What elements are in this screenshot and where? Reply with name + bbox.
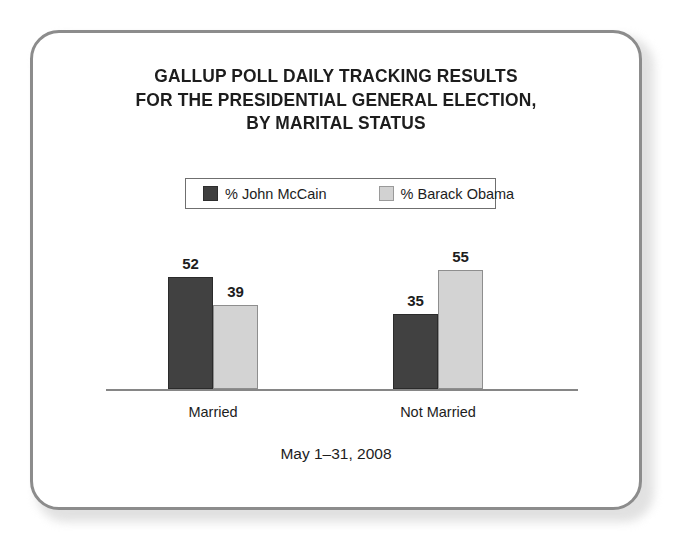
chart-legend: % John McCain % Barack Obama	[185, 178, 496, 209]
category-label-not-married: Not Married	[400, 404, 476, 420]
bar-value-married-mccain: 52	[182, 255, 199, 272]
chart-title-line-2: FOR THE PRESIDENTIAL GENERAL ELECTION,	[51, 88, 621, 112]
bar-value-married-obama: 39	[227, 283, 244, 300]
category-label-married: Married	[188, 404, 237, 420]
chart-frame: GALLUP POLL DAILY TRACKING RESULTS FOR T…	[30, 30, 642, 510]
legend-swatch-mccain	[203, 186, 218, 201]
legend-swatch-obama	[379, 186, 394, 201]
bar-value-not-married-obama: 55	[452, 248, 469, 265]
legend-entry-obama: % Barack Obama	[379, 186, 515, 202]
chart-footer-date-range: May 1–31, 2008	[33, 445, 639, 463]
bar-married-obama: 39	[213, 305, 258, 389]
chart-title: GALLUP POLL DAILY TRACKING RESULTS FOR T…	[51, 64, 621, 135]
legend-entry-mccain: % John McCain	[203, 186, 327, 202]
legend-label-mccain: % John McCain	[225, 186, 327, 202]
chart-title-line-1: GALLUP POLL DAILY TRACKING RESULTS	[51, 64, 621, 88]
bar-married-mccain: 52	[168, 277, 213, 389]
legend-label-obama: % Barack Obama	[401, 186, 515, 202]
bar-value-not-married-mccain: 35	[407, 292, 424, 309]
x-axis-baseline	[106, 389, 578, 391]
chart-title-line-3: BY MARITAL STATUS	[51, 111, 621, 135]
plot-area: 52 39 35 55 Married Not Married	[106, 223, 578, 391]
bar-not-married-obama: 55	[438, 270, 483, 389]
bar-not-married-mccain: 35	[393, 314, 438, 389]
